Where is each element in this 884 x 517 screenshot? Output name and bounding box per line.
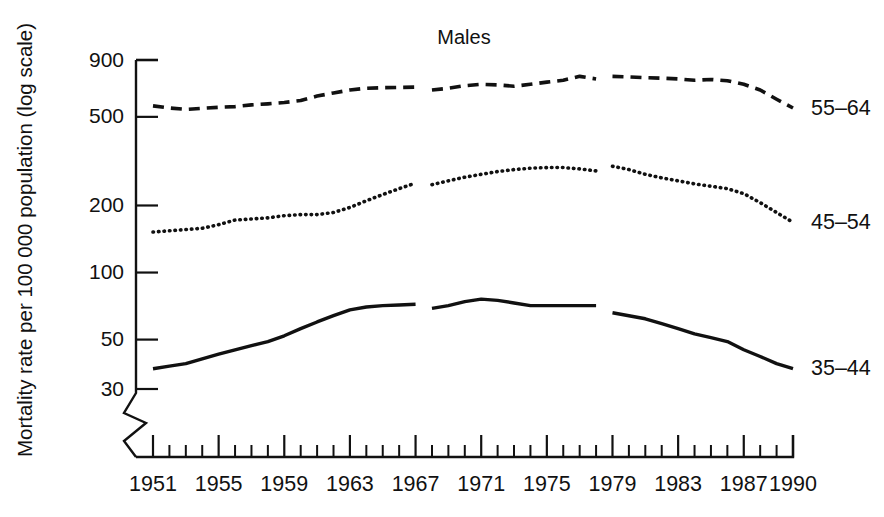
chart-figure: Mortality rate per 100 000 population (l…: [0, 0, 884, 517]
x-tick-label: 1983: [654, 472, 702, 496]
x-tick-label: 1955: [195, 472, 243, 496]
y-axis-title: Mortality rate per 100 000 population (l…: [13, 23, 36, 457]
y-axis-ticks: [136, 60, 158, 389]
series-line-55-64: [432, 76, 596, 90]
series-line-45-54: [153, 183, 416, 232]
x-tick-label: 1951: [129, 472, 177, 496]
x-tick-label: 1959: [260, 472, 308, 496]
axis-lines: [124, 60, 793, 457]
series-label-45-54: 45–54: [811, 210, 871, 234]
series-line-35-44: [612, 313, 793, 369]
y-axis-line: [124, 60, 146, 457]
chart-title: Males: [437, 26, 490, 48]
series-line-45-54: [612, 166, 793, 222]
series-end-labels: 55–6445–5435–44: [811, 96, 871, 381]
y-tick-label: 500: [89, 104, 124, 127]
x-tick-label: 1975: [523, 472, 571, 496]
series-label-55-64: 55–64: [811, 96, 871, 120]
mortality-line-chart: Mortality rate per 100 000 population (l…: [0, 0, 884, 517]
series-line-35-44: [432, 299, 596, 308]
y-axis-tick-labels: 9005002001005030: [89, 48, 124, 400]
series-line-55-64: [153, 87, 416, 109]
series-line-35-44: [153, 304, 416, 368]
x-tick-label: 1979: [589, 472, 637, 496]
x-tick-label: 1990: [769, 472, 817, 496]
y-tick-label: 200: [89, 193, 124, 216]
series-line-45-54: [432, 168, 596, 185]
series-line-55-64: [612, 76, 793, 108]
x-tick-label: 1963: [326, 472, 374, 496]
y-tick-label: 50: [101, 327, 124, 350]
x-tick-label: 1971: [457, 472, 505, 496]
x-axis-ticks: [153, 435, 793, 457]
x-axis-tick-labels: 1951195519591963196719711975197919831987…: [129, 472, 817, 496]
x-tick-label: 1987: [720, 472, 768, 496]
y-tick-label: 30: [101, 377, 124, 400]
x-tick-label: 1967: [392, 472, 440, 496]
y-tick-label: 900: [89, 48, 124, 71]
series-lines: [153, 76, 793, 368]
series-label-35-44: 35–44: [811, 356, 871, 380]
y-tick-label: 100: [89, 260, 124, 283]
